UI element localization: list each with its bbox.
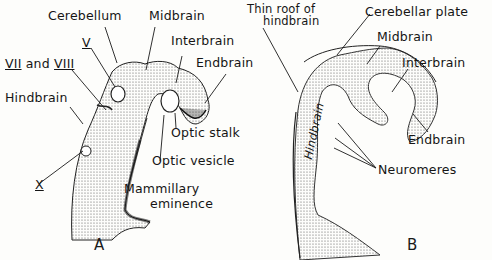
label-neuromeres: Neuromeres — [378, 163, 456, 176]
label-optic-vesicle: Optic vesicle — [152, 154, 235, 167]
panel-label-b: B — [407, 236, 417, 254]
label-nerve-vii: VII — [5, 56, 22, 71]
label-midbrain-b: Midbrain — [377, 30, 433, 43]
label-nerve-v: V — [82, 36, 91, 49]
label-thin-roof-2: hindbrain — [263, 15, 319, 28]
label-interbrain-b: Interbrain — [402, 56, 465, 69]
label-mammillary: Mammillary — [124, 182, 199, 195]
label-hindbrain-a: Hindbrain — [5, 91, 68, 104]
label-cerebellum: Cerebellum — [48, 9, 122, 22]
label-nerve-x: X — [35, 178, 44, 191]
brain-diagram: Cerebellum Midbrain Interbrain Endbrain … — [0, 0, 492, 260]
label-nerve-viii: VIII — [54, 56, 74, 71]
label-endbrain-a: Endbrain — [196, 56, 253, 69]
figure-a-embryo — [72, 61, 210, 240]
panel-label-a: A — [94, 236, 104, 254]
label-interbrain-a: Interbrain — [171, 34, 234, 47]
label-midbrain-a: Midbrain — [149, 9, 205, 22]
label-cerebellar-plate: Cerebellar plate — [365, 5, 468, 18]
label-eminence: eminence — [150, 197, 213, 210]
label-endbrain-b: Endbrain — [408, 133, 465, 146]
label-nerves-vii-viii: VII and VIII — [5, 57, 74, 70]
label-and: and — [26, 56, 50, 71]
label-optic-stalk: Optic stalk — [171, 126, 240, 139]
